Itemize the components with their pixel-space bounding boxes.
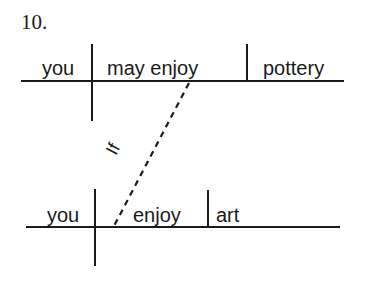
main-verb: may enjoy [107, 58, 198, 78]
sub-verb: enjoy [133, 205, 181, 225]
sentence-diagram-lines [0, 0, 373, 283]
main-object: pottery [263, 58, 324, 78]
sub-subject: you [47, 205, 79, 225]
sub-object: art [216, 205, 239, 225]
main-subject: you [42, 58, 74, 78]
